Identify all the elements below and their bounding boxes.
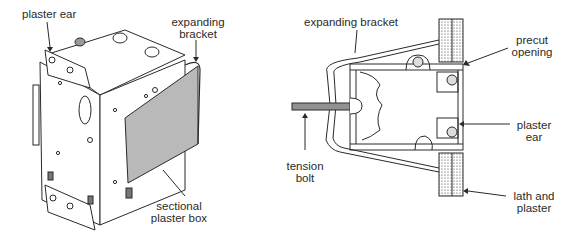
label-text: bracket [170, 28, 226, 40]
label-text: plaster [506, 202, 562, 214]
leader-plaster-ear [47, 22, 50, 47]
label-text: opening [506, 46, 558, 58]
label-text: plaster box [148, 212, 210, 224]
label-text: tension [282, 160, 328, 172]
label-text: bolt [282, 172, 328, 184]
label-text: plaster ear [22, 8, 76, 20]
label-precut-opening: precut opening [506, 34, 558, 58]
label-text: lath and [506, 190, 562, 202]
lath-plaster-upper [439, 19, 463, 62]
label-expanding-bracket-right: expanding bracket [304, 16, 398, 28]
label-text: sectional [148, 200, 210, 212]
tension-bolt [292, 103, 350, 110]
label-tension-bolt: tension bolt [282, 160, 328, 184]
leader-lath-plaster [468, 191, 506, 196]
label-plaster-ear-right: plaster ear [510, 119, 558, 143]
label-text: ear [510, 131, 558, 143]
label-expanding-bracket: expanding bracket [170, 16, 226, 40]
side-tab [33, 85, 39, 145]
label-text: expanding [170, 16, 226, 28]
lath-plaster-lower [439, 153, 463, 196]
box-section [350, 64, 463, 150]
label-text: plaster [510, 119, 558, 131]
diagram-canvas [0, 0, 571, 239]
label-plaster-ear: plaster ear [22, 8, 76, 20]
leader-expanding-bracket-right [355, 30, 357, 53]
label-lath-and-plaster: lath and plaster [506, 190, 562, 214]
label-text: expanding bracket [304, 16, 398, 28]
leader-precut-opening [468, 48, 508, 63]
label-sectional-plaster-box: sectional plaster box [148, 200, 210, 224]
label-text: precut [506, 34, 558, 46]
